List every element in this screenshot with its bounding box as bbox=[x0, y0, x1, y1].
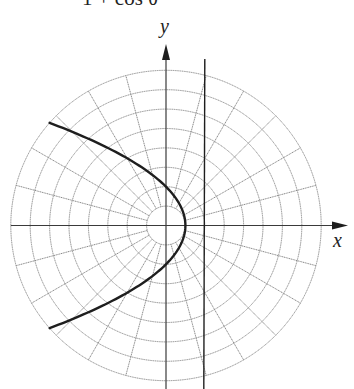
radial-line bbox=[180, 239, 276, 335]
radial-line bbox=[16, 231, 147, 266]
radial-line bbox=[126, 244, 161, 375]
directrix-line bbox=[204, 59, 205, 389]
radial-line bbox=[180, 116, 276, 212]
y-axis-label: y bbox=[158, 15, 169, 38]
polar-plot: x y bbox=[0, 0, 354, 389]
radial-line bbox=[171, 244, 206, 375]
radial-line bbox=[126, 76, 161, 207]
axes bbox=[11, 44, 348, 389]
x-axis-label: x bbox=[332, 229, 342, 251]
radial-line bbox=[16, 185, 147, 220]
radial-line bbox=[171, 76, 206, 207]
y-axis-arrow-icon bbox=[162, 44, 170, 60]
